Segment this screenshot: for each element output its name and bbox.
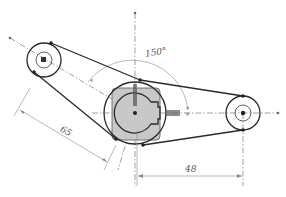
central-hub[interactable]: × <box>104 82 190 144</box>
constraint-marker-icon: × <box>185 110 190 117</box>
angled-length-dimension[interactable]: 65 <box>14 88 116 170</box>
tangent-point <box>32 70 36 74</box>
hub-center-point <box>133 111 137 115</box>
left-pulley[interactable] <box>27 43 61 77</box>
arrowhead-icon <box>20 110 25 114</box>
sketch-canvas[interactable]: 150° × <box>0 0 286 197</box>
right-pulley-center-point <box>241 111 245 115</box>
tangent-point <box>141 143 145 147</box>
tangent-point <box>49 41 53 45</box>
left-pulley-center-point <box>41 57 46 62</box>
constraint-glyph-icon <box>166 110 180 116</box>
centerline-endpoint <box>9 37 12 40</box>
tangent-point <box>241 128 245 132</box>
arrowhead-icon <box>237 174 242 178</box>
upper-left-tangent-line[interactable] <box>51 43 140 80</box>
tangent-point <box>114 137 118 141</box>
angle-label[interactable]: 150° <box>144 46 167 59</box>
arrowhead-icon <box>138 174 143 178</box>
dimension-line <box>20 110 107 162</box>
tangent-point <box>241 94 245 98</box>
lower-left-tangent-line[interactable] <box>34 72 116 139</box>
centerline-endpoint <box>277 112 280 115</box>
horizontal-length-label[interactable]: 48 <box>184 164 197 174</box>
tangent-point <box>138 78 142 82</box>
constraint-glyph-icon <box>133 84 137 106</box>
arrowhead-icon <box>102 158 107 162</box>
centerline-endpoint <box>134 12 137 15</box>
extension-line <box>104 145 116 170</box>
angled-length-label[interactable]: 65 <box>59 124 74 139</box>
